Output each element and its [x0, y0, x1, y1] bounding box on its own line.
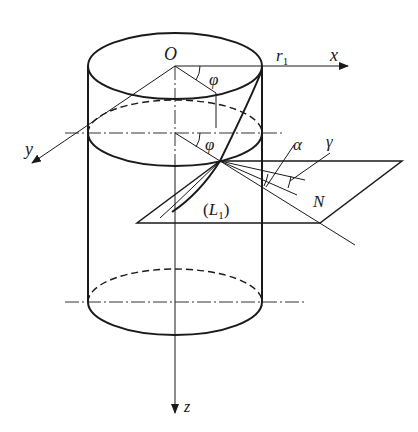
label-normal: N [312, 192, 326, 211]
normal-line-N [220, 161, 355, 245]
helix-curve [172, 70, 262, 212]
gamma-leader [290, 153, 330, 181]
cylinder-diagram: O r1 x y z φ φ α γ N (L1) [0, 0, 418, 432]
center-lines [65, 66, 305, 302]
label-plane: (L1) [203, 200, 229, 221]
label-radius: r1 [276, 46, 288, 67]
angle-lines [220, 145, 355, 245]
axes [32, 66, 348, 413]
label-alpha: α [293, 135, 303, 154]
label-y-axis: y [23, 139, 33, 159]
y-axis [32, 66, 175, 163]
label-z-axis: z [183, 398, 191, 415]
label-x-axis: x [329, 45, 338, 65]
line-alpha [220, 161, 297, 195]
phi-mid-arc [196, 133, 200, 147]
label-origin: O [164, 44, 177, 64]
gamma-arc [288, 176, 291, 188]
label-gamma: γ [326, 132, 334, 151]
phi-top-arc [196, 66, 200, 80]
label-phi-mid: φ [205, 135, 214, 154]
label-phi-top: φ [209, 70, 218, 89]
